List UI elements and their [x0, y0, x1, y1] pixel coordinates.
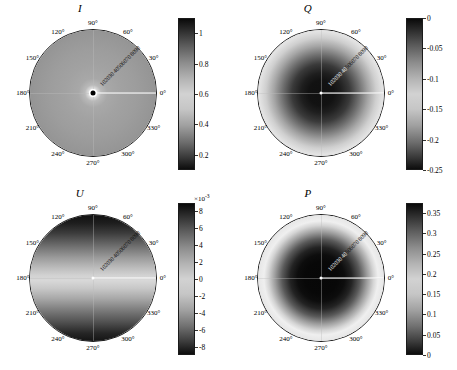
angular-tick-label: 30°: [377, 239, 387, 247]
zero-azimuth-pointer-line: [321, 278, 384, 279]
colorbar-tick-mark: [423, 355, 426, 356]
colorbar: 0.350.30.250.20.150.10.050: [406, 203, 454, 355]
panel-p: P0°30°60°90°120°150°180°210°240°270°300°…: [228, 185, 456, 370]
colorbar-tick-label: -0.25: [427, 166, 443, 175]
angular-tick-label: 180°: [16, 89, 29, 97]
colorbar-tick-label: 0.15: [427, 290, 440, 299]
angular-tick-label: 330°: [147, 124, 160, 132]
colorbar-tick-mark: [423, 18, 426, 19]
polar-axes: 0°30°60°90°120°150°180°210°240°270°300°3…: [18, 203, 168, 353]
panel-title: P: [194, 187, 422, 199]
colorbar-tick-label: 0.6: [199, 90, 208, 99]
colorbar-tick-mark: [423, 79, 426, 80]
angular-tick-label: 90°: [88, 204, 98, 212]
angular-tick-label: 300°: [349, 150, 362, 158]
colorbar-tick-label: -2: [199, 291, 205, 300]
colorbar-tick-mark: [195, 262, 198, 263]
angular-tick-label: 150°: [254, 54, 267, 62]
colorbar-tick-mark: [195, 313, 198, 314]
colorbar-tick-label: 0.2: [199, 150, 208, 159]
colorbar-tick-mark: [423, 170, 426, 171]
colorbar-tick-mark: [423, 213, 426, 214]
colorbar-tick-mark: [423, 314, 426, 315]
colorbar-tick-label: 6: [199, 224, 203, 233]
colorbar-tick-label: 4: [199, 241, 203, 250]
colorbar-tick-label: -4: [199, 308, 205, 317]
polar-axes: 0°30°60°90°120°150°180°210°240°270°300°3…: [246, 203, 396, 353]
center-marker: [91, 91, 96, 96]
colorbar-tick-label: -8: [199, 342, 205, 351]
angular-tick-label: 60°: [351, 213, 361, 221]
colorbar-tick-mark: [423, 335, 426, 336]
angular-tick-label: 240°: [51, 150, 64, 158]
colorbar-tick-mark: [195, 347, 198, 348]
colorbar-gradient: [406, 18, 423, 170]
colorbar-gradient: [178, 18, 195, 170]
angular-tick-label: 210°: [26, 309, 39, 317]
colorbar-gradient: [178, 203, 195, 355]
angular-tick-label: 30°: [149, 54, 159, 62]
angular-tick-label: 30°: [149, 239, 159, 247]
zero-azimuth-pointer-line: [321, 93, 384, 94]
polar-axes: 0°30°60°90°120°150°180°210°240°270°300°3…: [246, 18, 396, 168]
angular-tick-label: 240°: [279, 150, 292, 158]
colorbar-tick-mark: [423, 48, 426, 49]
angular-tick-label: 240°: [279, 335, 292, 343]
colorbar-tick-mark: [423, 109, 426, 110]
colorbar-tick-label: 0.4: [199, 120, 208, 129]
colorbar-tick-label: -0.2: [427, 135, 439, 144]
colorbar-tick-mark: [423, 254, 426, 255]
colorbar-tick-mark: [195, 330, 198, 331]
colorbar-tick-label: 0.25: [427, 249, 440, 258]
angular-tick-label: 0°: [388, 89, 394, 97]
center-marker: [92, 277, 95, 280]
angular-tick-label: 60°: [123, 213, 133, 221]
colorbar-tick-label: 0.05: [427, 330, 440, 339]
angular-tick-label: 0°: [160, 89, 166, 97]
colorbar-tick-mark: [195, 155, 198, 156]
polar-axes: 0°30°60°90°120°150°180°210°240°270°300°3…: [18, 18, 168, 168]
angular-tick-label: 150°: [26, 54, 39, 62]
colorbar-gradient: [406, 203, 423, 355]
colorbar-tick-label: 0.3: [427, 229, 436, 238]
angular-tick-label: 210°: [26, 124, 39, 132]
angular-tick-label: 90°: [88, 19, 98, 27]
panel-title: U: [0, 187, 194, 199]
colorbar-tick-label: -6: [199, 325, 205, 334]
angular-tick-label: 150°: [26, 239, 39, 247]
colorbar: 10.80.60.40.2: [178, 18, 226, 170]
colorbar-tick-label: -0.05: [427, 44, 443, 53]
colorbar-tick-label: -0.15: [427, 105, 443, 114]
colorbar-tick-mark: [423, 294, 426, 295]
colorbar-tick-mark: [423, 233, 426, 234]
colorbar-tick-label: 0: [427, 14, 431, 23]
colorbar-tick-mark: [195, 33, 198, 34]
angular-tick-label: 60°: [123, 28, 133, 36]
angular-tick-label: 120°: [51, 28, 64, 36]
center-marker: [320, 277, 323, 280]
angular-tick-label: 180°: [16, 274, 29, 282]
angular-tick-label: 330°: [375, 309, 388, 317]
angular-tick-label: 90°: [316, 204, 326, 212]
angular-tick-label: 330°: [147, 309, 160, 317]
colorbar-tick-label: 0.8: [199, 59, 208, 68]
panel-u: U0°30°60°90°120°150°180°210°240°270°300°…: [0, 185, 228, 370]
panel-title: I: [0, 2, 194, 14]
colorbar-tick-label: -0.1: [427, 74, 439, 83]
angular-tick-label: 150°: [254, 239, 267, 247]
panel-i: I0°30°60°90°120°150°180°210°240°270°300°…: [0, 0, 228, 185]
colorbar-tick-mark: [195, 228, 198, 229]
colorbar-tick-mark: [195, 124, 198, 125]
angular-tick-label: 0°: [388, 274, 394, 282]
angular-tick-label: 300°: [121, 335, 134, 343]
angular-tick-label: 210°: [254, 124, 267, 132]
colorbar-tick-label: 0: [199, 275, 203, 284]
angular-tick-label: 330°: [375, 124, 388, 132]
zero-azimuth-pointer-line: [93, 278, 156, 279]
panel-q: Q0°30°60°90°120°150°180°210°240°270°300°…: [228, 0, 456, 185]
colorbar: 0-0.05-0.1-0.15-0.2-0.25: [406, 18, 454, 170]
colorbar-tick-label: 0: [427, 351, 431, 360]
angular-tick-label: 270°: [314, 159, 327, 167]
colorbar-tick-label: 0.1: [427, 310, 436, 319]
colorbar-tick-label: 8: [199, 207, 203, 216]
